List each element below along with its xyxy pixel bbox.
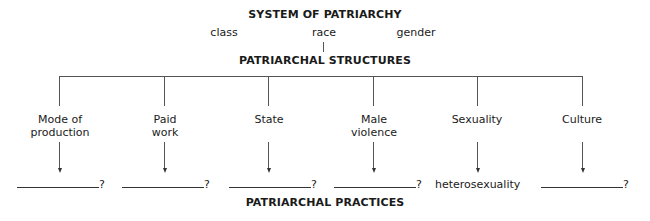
question-mark: ? bbox=[204, 178, 210, 191]
blank-line bbox=[334, 187, 416, 188]
practice-blank-3: ? bbox=[334, 178, 422, 191]
arrow-shaft-0 bbox=[59, 142, 60, 170]
practice-label: heterosexuality bbox=[435, 178, 520, 191]
connector-up-1 bbox=[164, 76, 165, 106]
structure-paid-work: Paid work bbox=[152, 113, 179, 139]
structures-heading: PATRIARCHAL STRUCTURES bbox=[239, 54, 411, 67]
structure-label-line2: production bbox=[30, 126, 89, 139]
practices-heading: PATRIARCHAL PRACTICES bbox=[246, 196, 405, 209]
blank-line bbox=[122, 187, 204, 188]
arrow-down-icon bbox=[58, 168, 62, 173]
connector-up-0 bbox=[59, 76, 60, 106]
arrow-down-icon bbox=[581, 168, 585, 173]
arrow-shaft-2 bbox=[268, 142, 269, 170]
diagram-title: SYSTEM OF PATRIARCHY bbox=[248, 8, 401, 21]
structure-culture: Culture bbox=[562, 113, 602, 126]
structure-label-line1: Male bbox=[351, 113, 397, 126]
question-mark: ? bbox=[623, 178, 629, 191]
arrow-down-icon bbox=[163, 168, 167, 173]
arrow-down-icon bbox=[267, 168, 271, 173]
structure-label-line1: Sexuality bbox=[452, 113, 503, 126]
dimension-class: class bbox=[210, 26, 237, 39]
arrow-down-icon bbox=[476, 168, 480, 173]
connector-up-4 bbox=[477, 76, 478, 106]
blank-line bbox=[17, 187, 99, 188]
structure-label-line2: violence bbox=[351, 126, 397, 139]
connector-up-5 bbox=[582, 76, 583, 106]
connector-up-2 bbox=[268, 76, 269, 106]
connector-up-3 bbox=[373, 76, 374, 106]
practice-blank-1: ? bbox=[122, 178, 210, 191]
structure-label-line1: State bbox=[254, 113, 283, 126]
practice-blank-0: ? bbox=[17, 178, 105, 191]
structure-label-line2: work bbox=[152, 126, 179, 139]
structure-male-violence: Male violence bbox=[351, 113, 397, 139]
blank-line bbox=[229, 187, 311, 188]
arrow-shaft-4 bbox=[477, 142, 478, 170]
structure-label-line1: Culture bbox=[562, 113, 602, 126]
structure-mode-of-production: Mode of production bbox=[30, 113, 89, 139]
question-mark: ? bbox=[99, 178, 105, 191]
blank-line bbox=[541, 187, 623, 188]
structure-state: State bbox=[254, 113, 283, 126]
practice-blank-2: ? bbox=[229, 178, 317, 191]
arrow-shaft-3 bbox=[373, 142, 374, 170]
arrow-down-icon bbox=[372, 168, 376, 173]
dimension-race: race bbox=[312, 26, 336, 39]
structure-sexuality: Sexuality bbox=[452, 113, 503, 126]
practice-blank-5: ? bbox=[541, 178, 629, 191]
structures-bracket bbox=[59, 76, 583, 77]
question-mark: ? bbox=[311, 178, 317, 191]
arrow-shaft-5 bbox=[582, 142, 583, 170]
race-connector bbox=[323, 42, 324, 52]
question-mark: ? bbox=[416, 178, 422, 191]
dimension-gender: gender bbox=[397, 26, 436, 39]
arrow-shaft-1 bbox=[164, 142, 165, 170]
structure-label-line1: Mode of bbox=[30, 113, 89, 126]
structure-label-line1: Paid bbox=[152, 113, 179, 126]
practice-heterosexuality: heterosexuality bbox=[435, 178, 520, 191]
